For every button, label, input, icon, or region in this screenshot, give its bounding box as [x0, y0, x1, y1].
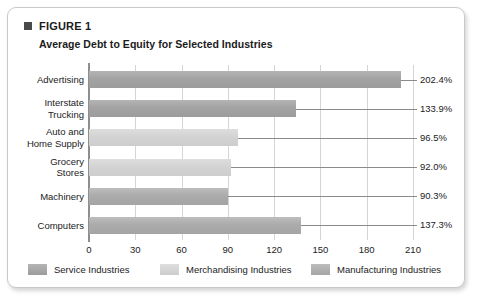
- square-bullet-icon: [24, 22, 32, 30]
- chart-plot-region: AdvertisingInterstateTruckingAuto andHom…: [8, 61, 464, 246]
- legend-item[interactable]: Service Industries: [28, 264, 130, 275]
- category-label: GroceryStores: [12, 156, 84, 179]
- category-label-line: Auto and: [12, 126, 84, 138]
- x-tick-150: 150: [312, 244, 328, 255]
- x-tick-210: 210: [405, 244, 421, 255]
- gridline-90: [228, 65, 229, 240]
- figure-number: FIGURE 1: [39, 20, 91, 32]
- bar-grocery-stores: [89, 159, 231, 176]
- category-label-line: Grocery: [12, 156, 84, 168]
- category-label-line: Interstate: [12, 97, 84, 109]
- category-label: Machinery: [12, 191, 84, 203]
- x-tick-90: 90: [223, 244, 234, 255]
- x-axis-ticks: 0306090120150180210: [89, 244, 419, 260]
- bar-machinery: [89, 188, 228, 205]
- value-label: 202.4%: [420, 74, 452, 85]
- legend-item[interactable]: Manufacturing Industries: [311, 264, 441, 275]
- x-tick-60: 60: [176, 244, 187, 255]
- leader-line: [231, 167, 417, 168]
- chart-legend: Service IndustriesMerchandising Industri…: [28, 264, 448, 280]
- bar-computers: [89, 217, 301, 234]
- value-label: 92.0%: [420, 161, 447, 172]
- figure-header: FIGURE 1 Average Debt to Equity for Sele…: [24, 19, 444, 50]
- legend-swatch-icon: [28, 264, 47, 275]
- bar-row: [89, 71, 413, 88]
- gridline-180: [367, 65, 368, 240]
- value-label: 137.3%: [420, 219, 452, 230]
- bar-advertising: [89, 71, 401, 88]
- bar-auto-and-home-supply: [89, 129, 238, 146]
- value-label: 90.3%: [420, 190, 447, 201]
- bars-plot-area: [89, 65, 413, 240]
- category-label-line: Home Supply: [12, 138, 84, 150]
- legend-swatch-icon: [311, 264, 330, 275]
- leader-line: [228, 196, 417, 197]
- figure-label-row: FIGURE 1: [24, 19, 444, 33]
- category-label-line: Stores: [12, 167, 84, 179]
- category-label: InterstateTrucking: [12, 97, 84, 120]
- x-tick-0: 0: [86, 244, 91, 255]
- x-tick-120: 120: [266, 244, 282, 255]
- category-label: Auto andHome Supply: [12, 126, 84, 149]
- legend-label: Service Industries: [54, 264, 130, 275]
- legend-label: Manufacturing Industries: [337, 264, 441, 275]
- y-axis-category-labels: AdvertisingInterstateTruckingAuto andHom…: [8, 65, 84, 240]
- leader-line: [301, 225, 417, 226]
- figure-title: Average Debt to Equity for Selected Indu…: [39, 38, 444, 50]
- category-label-line: Trucking: [12, 109, 84, 121]
- leader-line: [401, 80, 417, 81]
- leader-line: [296, 109, 417, 110]
- figure-panel: FIGURE 1 Average Debt to Equity for Sele…: [7, 7, 465, 288]
- leader-line: [238, 138, 417, 139]
- gridline-120: [274, 65, 275, 240]
- gridline-210: [413, 65, 414, 240]
- gridline-30: [135, 65, 136, 240]
- category-label-line: Machinery: [12, 191, 84, 203]
- legend-item[interactable]: Merchandising Industries: [160, 264, 292, 275]
- bar-interstate-trucking: [89, 100, 296, 117]
- gridline-60: [182, 65, 183, 240]
- value-label: 96.5%: [420, 132, 447, 143]
- category-label: Computers: [12, 220, 84, 232]
- legend-label: Merchandising Industries: [186, 264, 292, 275]
- legend-swatch-icon: [160, 264, 179, 275]
- category-label: Advertising: [12, 74, 84, 86]
- value-label: 133.9%: [420, 103, 452, 114]
- category-label-line: Advertising: [12, 74, 84, 86]
- x-tick-180: 180: [359, 244, 375, 255]
- x-tick-30: 30: [130, 244, 141, 255]
- gridline-150: [320, 65, 321, 240]
- category-label-line: Computers: [12, 220, 84, 232]
